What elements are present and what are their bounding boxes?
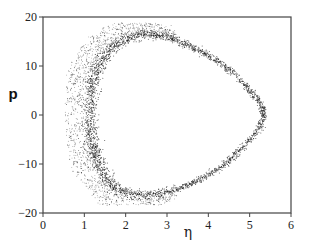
scatter-point <box>67 115 68 116</box>
scatter-point <box>80 97 81 98</box>
scatter-point <box>154 33 155 34</box>
scatter-point <box>260 123 261 124</box>
scatter-point <box>89 180 90 181</box>
scatter-point <box>95 67 96 68</box>
scatter-point <box>120 196 121 197</box>
scatter-point <box>171 191 172 192</box>
scatter-point <box>88 36 89 37</box>
scatter-point <box>92 185 93 186</box>
scatter-point <box>216 61 217 62</box>
scatter-point <box>65 121 66 122</box>
scatter-point <box>228 73 229 74</box>
scatter-point <box>132 39 133 40</box>
scatter-point <box>215 62 216 63</box>
scatter-point <box>73 140 74 141</box>
scatter-point <box>75 81 76 82</box>
scatter-point <box>257 105 258 106</box>
scatter-point <box>225 65 226 66</box>
scatter-point <box>133 28 134 29</box>
scatter-point <box>88 182 89 183</box>
scatter-point <box>122 195 123 196</box>
scatter-point <box>95 59 96 60</box>
scatter-point <box>201 51 202 52</box>
scatter-point <box>107 189 108 190</box>
scatter-point <box>112 199 113 200</box>
scatter-point <box>123 201 124 202</box>
scatter-point <box>147 194 148 195</box>
scatter-point <box>173 191 174 192</box>
scatter-point <box>102 62 103 63</box>
scatter-point <box>196 179 197 180</box>
scatter-point <box>84 175 85 176</box>
scatter-point <box>96 73 97 74</box>
scatter-point <box>118 183 119 184</box>
scatter-point <box>102 181 103 182</box>
scatter-point <box>212 173 213 174</box>
scatter-point <box>158 35 159 36</box>
scatter-point <box>198 51 199 52</box>
scatter-point <box>150 191 151 192</box>
scatter-point <box>123 36 124 37</box>
scatter-point <box>111 179 112 180</box>
scatter-point <box>87 80 88 81</box>
scatter-point <box>87 55 88 56</box>
scatter-point <box>85 44 86 45</box>
scatter-point <box>254 97 255 98</box>
scatter-point <box>91 151 92 152</box>
scatter-point <box>72 140 73 141</box>
scatter-point <box>122 189 123 190</box>
scatter-point <box>121 39 122 40</box>
scatter-point <box>76 139 77 140</box>
scatter-point <box>146 24 147 25</box>
scatter-point <box>87 107 88 108</box>
scatter-point <box>95 153 96 154</box>
scatter-point <box>86 142 87 143</box>
scatter-point <box>192 49 193 50</box>
scatter-point <box>91 78 92 79</box>
scatter-point <box>91 102 92 103</box>
scatter-point <box>115 37 116 38</box>
scatter-point <box>107 205 108 206</box>
scatter-point <box>98 64 99 65</box>
scatter-point <box>97 165 98 166</box>
scatter-point <box>97 195 98 196</box>
scatter-point <box>93 41 94 42</box>
scatter-point <box>114 46 115 47</box>
scatter-point <box>104 52 105 53</box>
scatter-point <box>79 131 80 132</box>
scatter-point <box>99 160 100 161</box>
scatter-point <box>75 124 76 125</box>
scatter-point <box>91 97 92 98</box>
scatter-point <box>245 84 246 85</box>
scatter-point <box>167 34 168 35</box>
scatter-point <box>222 164 223 165</box>
scatter-point <box>107 203 108 204</box>
scatter-point <box>99 58 100 59</box>
scatter-point <box>74 163 75 164</box>
scatter-point <box>142 28 143 29</box>
scatter-point <box>89 49 90 50</box>
scatter-point <box>120 193 121 194</box>
scatter-point <box>163 31 164 32</box>
scatter-point <box>97 172 98 173</box>
scatter-point <box>95 49 96 50</box>
scatter-point <box>95 152 96 153</box>
scatter-point <box>262 103 263 104</box>
scatter-point <box>248 141 249 142</box>
scatter-point <box>130 192 131 193</box>
scatter-point <box>130 39 131 40</box>
scatter-point <box>72 128 73 129</box>
scatter-point <box>220 169 221 170</box>
scatter-point <box>152 194 153 195</box>
scatter-point <box>202 46 203 47</box>
scatter-point <box>88 110 89 111</box>
scatter-point <box>247 90 248 91</box>
scatter-point <box>120 29 121 30</box>
scatter-point <box>117 194 118 195</box>
scatter-point <box>88 75 89 76</box>
scatter-point <box>76 63 77 64</box>
scatter-point <box>82 150 83 151</box>
scatter-point <box>219 172 220 173</box>
scatter-point <box>262 121 263 122</box>
scatter-point <box>95 58 96 59</box>
